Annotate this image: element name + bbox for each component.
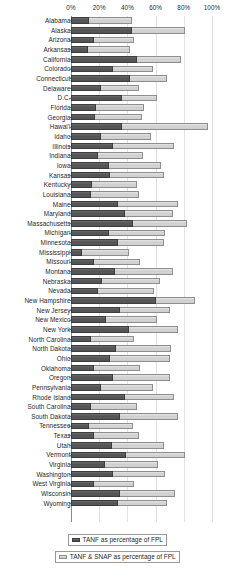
row-label-louisiana: Louisiana <box>43 190 71 199</box>
bar-segment-tanf <box>71 278 102 285</box>
plot-area: AlabamaAlaskaArizonaArkansasCaliforniaCo… <box>0 16 235 522</box>
bar-segment-tanf <box>71 452 126 459</box>
row-label-mississippi: Mississippi <box>39 248 70 257</box>
bar-row: Virginia <box>0 460 235 470</box>
row-label-nevada: Nevada <box>48 286 70 295</box>
bar-row: Kentucky <box>0 180 235 190</box>
bar-group <box>71 220 212 227</box>
row-label-minnesota: Minnesota <box>41 238 71 247</box>
bar-segment-tanf <box>71 220 133 227</box>
bar-row: Wisconsin <box>0 489 235 499</box>
bar-group <box>71 268 212 275</box>
row-label-california: California <box>43 55 71 64</box>
bar-segment-tanf <box>71 152 98 159</box>
row-label-nebraska: Nebraska <box>43 277 71 286</box>
row-label-wisconsin: Wisconsin <box>41 489 71 498</box>
bar-segment-tanf <box>71 500 118 507</box>
bar-row: Delaware <box>0 84 235 94</box>
bar-row: Georgia <box>0 113 235 123</box>
bar-segment-tanf <box>71 432 94 439</box>
bar-segment-tanf <box>71 172 110 179</box>
row-label-georgia: Georgia <box>47 113 70 122</box>
x-axis-tick-20: 20% <box>93 4 106 12</box>
bar-group <box>71 452 212 459</box>
bar-group <box>71 104 212 111</box>
bar-segment-tanf <box>71 181 92 188</box>
bar-row: Hawai'i <box>0 122 235 132</box>
legend-swatch-icon <box>59 555 67 560</box>
row-label-vermont: Vermont <box>46 450 70 459</box>
bar-row: North Carolina <box>0 334 235 344</box>
x-axis-tick-80: 80% <box>177 4 190 12</box>
bar-row: West Virginia <box>0 479 235 489</box>
bar-row: Alaska <box>0 26 235 36</box>
bar-segment-tanf <box>71 201 118 208</box>
bar-segment-tanf <box>71 268 115 275</box>
row-label-arkansas: Arkansas <box>43 45 70 54</box>
bar-group <box>71 461 212 468</box>
x-axis-tick-labels: 0%20%40%60%80%100% <box>0 4 235 16</box>
bar-group <box>71 85 212 92</box>
row-label-texas: Texas <box>54 431 71 440</box>
bar-row: New York <box>0 325 235 335</box>
bar-group <box>71 17 212 24</box>
bar-group <box>71 336 212 343</box>
row-label-michigan: Michigan <box>45 228 71 237</box>
bar-row: Connecticut <box>0 74 235 84</box>
x-axis-tick-0: 0% <box>66 4 75 12</box>
row-label-oregon: Oregon <box>49 373 71 382</box>
bar-segment-tanf <box>71 114 95 121</box>
row-label-alaska: Alaska <box>51 26 70 35</box>
bar-group <box>71 172 212 179</box>
row-label-oklahoma: Oklahoma <box>41 364 71 373</box>
chart-legend: TANF as percentage of FPLTANF & SNAP as … <box>0 534 235 568</box>
row-label-west-virginia: West Virginia <box>32 479 70 488</box>
bar-group <box>71 297 212 304</box>
bar-segment-tanf <box>71 307 120 314</box>
bar-row: Indiana <box>0 151 235 161</box>
bar-row: Rhode Island <box>0 392 235 402</box>
bar-group <box>71 123 212 130</box>
row-label-maryland: Maryland <box>44 209 71 218</box>
bar-row: New Hampshire <box>0 296 235 306</box>
bar-group <box>71 345 212 352</box>
bar-group <box>71 355 212 362</box>
row-label-washington: Washington <box>36 470 70 479</box>
bar-group <box>71 481 212 488</box>
bar-row: Utah <box>0 441 235 451</box>
bar-segment-tanf <box>71 133 101 140</box>
bar-segment-tanf <box>71 336 91 343</box>
bar-segment-tanf <box>71 143 113 150</box>
bar-row: Maryland <box>0 209 235 219</box>
bar-rows: AlabamaAlaskaArizonaArkansasCaliforniaCo… <box>0 16 235 522</box>
bar-segment-tanf <box>71 123 122 130</box>
bar-row: Wyoming <box>0 499 235 509</box>
bar-row: Idaho <box>0 132 235 142</box>
row-label-north-carolina: North Carolina <box>29 335 71 344</box>
x-axis-tick-60: 60% <box>149 4 162 12</box>
row-label-new-jersey: New Jersey <box>37 306 71 315</box>
bar-segment-tanf <box>71 37 94 44</box>
bar-row: California <box>0 55 235 65</box>
bar-row: Louisiana <box>0 190 235 200</box>
tanf-fpl-bar-chart: 0%20%40%60%80%100% AlabamaAlaskaArizonaA… <box>0 0 235 581</box>
bar-segment-tanf <box>71 259 94 266</box>
bar-group <box>71 152 212 159</box>
legend-item-2: TANF & SNAP as percentage of FPL <box>55 551 179 563</box>
bar-segment-tanf <box>71 210 125 217</box>
row-label-new-hampshire: New Hampshire <box>24 296 70 305</box>
bar-segment-tanf <box>71 17 89 24</box>
bar-segment-tanf <box>71 249 82 256</box>
row-label-alabama: Alabama <box>45 16 71 25</box>
row-label-virginia: Virginia <box>49 460 71 469</box>
bar-group <box>71 316 212 323</box>
bar-segment-tanf <box>71 230 109 237</box>
bar-segment-tanf <box>71 27 132 34</box>
bar-segment-tanf <box>71 442 112 449</box>
bar-segment-tanf <box>71 413 120 420</box>
row-label-florida: Florida <box>51 103 71 112</box>
bar-row: D.C. <box>0 93 235 103</box>
bar-row: Pennsylvania <box>0 383 235 393</box>
row-label-north-dakota: North Dakota <box>32 344 70 353</box>
bar-group <box>71 239 212 246</box>
